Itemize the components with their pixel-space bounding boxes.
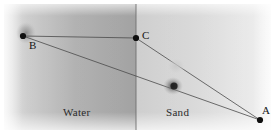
point-b-dot [20, 33, 26, 39]
top-bottom-vignette [0, 0, 275, 132]
point-label-a: A [262, 104, 270, 116]
refraction-diagram: Water Sand B C A [0, 0, 275, 132]
left-edge-vignette [0, 0, 22, 132]
region-label-water: Water [63, 106, 91, 118]
point-c-dot [133, 35, 139, 41]
point-label-b: B [29, 39, 36, 51]
diagram-canvas [0, 0, 275, 132]
point-label-c: C [142, 29, 149, 41]
blurred-figure-core [170, 82, 177, 89]
blurred-figure-on-ca-path [166, 57, 186, 75]
point-a-dot [257, 117, 263, 123]
region-label-sand: Sand [166, 106, 189, 118]
